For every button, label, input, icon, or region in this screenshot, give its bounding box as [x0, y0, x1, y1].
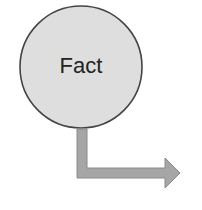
fact-label: Fact: [60, 53, 103, 78]
fact-node: Fact: [20, 6, 142, 128]
arrow-shape: [77, 129, 180, 188]
diagram-canvas: Fact: [0, 0, 202, 210]
elbow-arrow-icon: [77, 129, 180, 188]
